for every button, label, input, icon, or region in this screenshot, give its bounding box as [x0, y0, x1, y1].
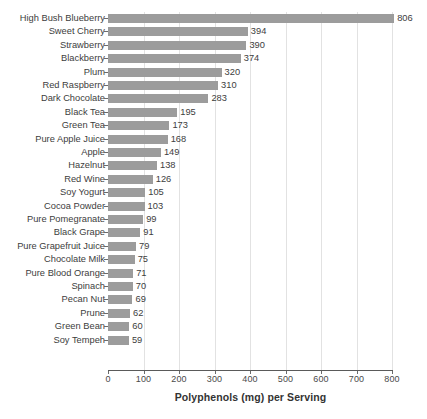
bar[interactable]	[108, 121, 169, 130]
bar[interactable]	[108, 295, 132, 304]
category-label: Black Grape	[2, 227, 105, 238]
bar[interactable]	[108, 108, 177, 117]
x-axis-line	[108, 370, 393, 371]
bar-row[interactable]: Spinach70	[0, 281, 427, 292]
category-label: Red Raspberry	[2, 80, 105, 91]
category-label: Black Tea	[2, 107, 105, 118]
category-label: Pure Pomegranate	[2, 214, 105, 225]
bar[interactable]	[108, 255, 135, 264]
x-axis-tick-label: 700	[349, 374, 364, 384]
category-label: Pecan Nut	[2, 294, 105, 305]
category-label: Pure Apple Juice	[2, 134, 105, 145]
bar-row[interactable]: Pure Grapefruit Juice79	[0, 241, 427, 252]
bar-value-label: 394	[251, 26, 267, 37]
bar[interactable]	[108, 41, 246, 50]
bar-row[interactable]: Sweet Cherry394	[0, 26, 427, 37]
bar[interactable]	[108, 148, 161, 157]
bar-value-label: 79	[139, 241, 149, 252]
bar-value-label: 138	[160, 160, 176, 171]
bar-value-label: 173	[172, 120, 188, 131]
bar-row[interactable]: Hazelnut138	[0, 160, 427, 171]
category-label: Hazelnut	[2, 160, 105, 171]
bar[interactable]	[108, 242, 136, 251]
bar[interactable]	[108, 68, 222, 77]
bar[interactable]	[108, 54, 241, 63]
category-label: Green Tea	[2, 120, 105, 131]
bar[interactable]	[108, 27, 248, 36]
category-label: Green Bean	[2, 321, 105, 332]
bar-value-label: 75	[138, 254, 148, 265]
category-label: Strawberry	[2, 40, 105, 51]
bar-value-label: 60	[132, 321, 142, 332]
bar-row[interactable]: Soy Tempeh59	[0, 335, 427, 346]
category-label: Pure Grapefruit Juice	[2, 241, 105, 252]
bar-row[interactable]: Red Wine126	[0, 174, 427, 185]
bar-value-label: 71	[136, 268, 146, 279]
bar-row[interactable]: Cocoa Powder103	[0, 201, 427, 212]
bar-value-label: 195	[180, 107, 196, 118]
bar[interactable]	[108, 322, 129, 331]
bar[interactable]	[108, 282, 133, 291]
bar-row[interactable]: Pecan Nut69	[0, 294, 427, 305]
bar-value-label: 283	[211, 93, 227, 104]
bar-value-label: 59	[132, 335, 142, 346]
bar-row[interactable]: Pure Apple Juice168	[0, 134, 427, 145]
x-axis-tick-label: 0	[105, 374, 110, 384]
bar-value-label: 168	[171, 134, 187, 145]
category-label: Cocoa Powder	[2, 201, 105, 212]
bar-row[interactable]: Black Tea195	[0, 107, 427, 118]
bar-row[interactable]: Green Tea173	[0, 120, 427, 131]
bar[interactable]	[108, 269, 133, 278]
bar-row[interactable]: Prune62	[0, 308, 427, 319]
bar[interactable]	[108, 135, 168, 144]
bar-row[interactable]: Black Grape91	[0, 227, 427, 238]
category-label: Spinach	[2, 281, 105, 292]
x-axis-title: Polyphenols (mg) per Serving	[108, 391, 393, 403]
category-label: Plum	[2, 67, 105, 78]
category-label: Red Wine	[2, 174, 105, 185]
bar[interactable]	[108, 215, 143, 224]
bar-row[interactable]: Chocolate Milk75	[0, 254, 427, 265]
polyphenols-bar-chart: Polyphenols (mg) per Serving 01002003004…	[0, 0, 427, 419]
x-axis-tick-label: 100	[136, 374, 151, 384]
bar-value-label: 91	[143, 227, 153, 238]
category-label: Pure Blood Orange	[2, 268, 105, 279]
bar[interactable]	[108, 228, 140, 237]
bar[interactable]	[108, 14, 394, 23]
bar-row[interactable]: Dark Chocolate283	[0, 93, 427, 104]
bar-row[interactable]: High Bush Blueberry806	[0, 13, 427, 24]
bar-row[interactable]: Green Bean60	[0, 321, 427, 332]
x-axis-tick-label: 600	[313, 374, 328, 384]
bar-value-label: 806	[397, 13, 413, 24]
x-axis-tick-label: 500	[278, 374, 293, 384]
bar-row[interactable]: Pure Blood Orange71	[0, 268, 427, 279]
x-axis-tick-label: 400	[242, 374, 257, 384]
bar-row[interactable]: Pure Pomegranate99	[0, 214, 427, 225]
x-axis-tick-label: 300	[207, 374, 222, 384]
bar-row[interactable]: Apple149	[0, 147, 427, 158]
bar-value-label: 105	[148, 187, 164, 198]
bar[interactable]	[108, 188, 145, 197]
category-label: Blackberry	[2, 53, 105, 64]
bar[interactable]	[108, 336, 129, 345]
bar-value-label: 70	[136, 281, 146, 292]
bar-value-label: 390	[249, 40, 265, 51]
bar[interactable]	[108, 202, 145, 211]
category-label: Apple	[2, 147, 105, 158]
bar-row[interactable]: Plum320	[0, 67, 427, 78]
bar-row[interactable]: Red Raspberry310	[0, 80, 427, 91]
bar[interactable]	[108, 81, 218, 90]
bar-value-label: 69	[135, 294, 145, 305]
bar-row[interactable]: Strawberry390	[0, 40, 427, 51]
bar[interactable]	[108, 161, 157, 170]
x-axis-tick-label: 800	[384, 374, 399, 384]
bar[interactable]	[108, 309, 130, 318]
bar-row[interactable]: Blackberry374	[0, 53, 427, 64]
bar-value-label: 149	[164, 147, 180, 158]
x-axis-tick-label: 200	[171, 374, 186, 384]
bar[interactable]	[108, 175, 153, 184]
bar[interactable]	[108, 94, 208, 103]
category-label: Sweet Cherry	[2, 26, 105, 37]
bar-value-label: 320	[225, 67, 241, 78]
bar-row[interactable]: Soy Yogurt105	[0, 187, 427, 198]
